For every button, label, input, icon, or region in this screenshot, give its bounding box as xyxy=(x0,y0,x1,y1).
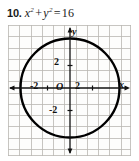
y-axis-arrow-down xyxy=(68,149,73,155)
x-axis-tick-label-neg2: -2 xyxy=(30,81,38,91)
y-axis-name-label: y xyxy=(72,27,76,37)
y-axis-tick-label-neg2: -2 xyxy=(49,105,57,115)
problem-equation: x2+y2=16 xyxy=(25,6,75,20)
x-axis-tick-label-pos2: 2 xyxy=(75,81,80,91)
origin-label: O xyxy=(56,82,63,92)
problem-number: 10. xyxy=(7,7,22,19)
equation-equals-operator: = xyxy=(54,6,61,20)
x-axis-name-label: x xyxy=(119,80,124,90)
x-axis-arrow-left xyxy=(9,86,15,91)
equation-term1-exponent: 2 xyxy=(30,6,34,14)
x-axis-arrow-right xyxy=(125,86,131,91)
axes xyxy=(8,25,131,156)
equation-value: 16 xyxy=(62,6,75,20)
worksheet-problem-image: 10.x2+y2=16 xyxy=(0,0,139,161)
coordinate-plane: -2 2 2 -2 O x y xyxy=(8,25,131,156)
y-axis-tick-label-pos2: 2 xyxy=(54,57,59,67)
equation-plus-operator: + xyxy=(35,6,42,20)
equation-term2-exponent: 2 xyxy=(49,6,53,14)
problem-header: 10.x2+y2=16 xyxy=(7,3,137,22)
